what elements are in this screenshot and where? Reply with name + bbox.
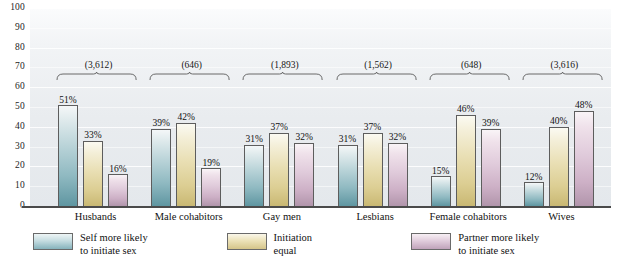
bar-value-label: 40% bbox=[550, 117, 567, 127]
bar-slot: 31% bbox=[244, 8, 264, 206]
bar-chart: 1009080706050403020100 (3,612)51%33%16%(… bbox=[0, 0, 617, 268]
y-axis-tick-10: 10 bbox=[15, 181, 25, 191]
bar-5-1[interactable]: 40% bbox=[549, 127, 569, 206]
category-label-0: Husbands bbox=[52, 210, 139, 224]
legend-label-line2: equal bbox=[274, 245, 313, 258]
bar-4-0[interactable]: 15% bbox=[431, 176, 451, 206]
bar-slot: 16% bbox=[108, 8, 128, 206]
legend-label-line1: Self more likely bbox=[80, 232, 148, 245]
y-axis: 1009080706050403020100 bbox=[0, 0, 28, 215]
y-axis-tick-30: 30 bbox=[15, 142, 25, 152]
bar-group-2: (1,893)31%37%32% bbox=[238, 8, 331, 206]
bar-groups: (3,612)51%33%16%(646)39%42%19%(1,893)31%… bbox=[30, 8, 611, 206]
bar-5-0[interactable]: 12% bbox=[524, 182, 544, 206]
bar-slot: 32% bbox=[388, 8, 408, 206]
bar-value-label: 42% bbox=[177, 113, 194, 123]
bars-container: 12%40%48% bbox=[518, 8, 611, 206]
bar-value-label: 33% bbox=[84, 131, 101, 141]
legend-label-line2: to initiate sex bbox=[458, 245, 539, 258]
legend-label: Self more likelyto initiate sex bbox=[80, 232, 148, 257]
bar-slot: 46% bbox=[456, 8, 476, 206]
bar-value-label: 46% bbox=[457, 105, 474, 115]
legend-label: Initiationequal bbox=[274, 232, 313, 257]
bars-container: 31%37%32% bbox=[238, 8, 331, 206]
bar-2-2[interactable]: 32% bbox=[294, 143, 314, 206]
bar-slot: 39% bbox=[151, 8, 171, 206]
y-axis-tick-60: 60 bbox=[15, 82, 25, 92]
bar-value-label: 48% bbox=[575, 101, 592, 111]
legend-item-1[interactable]: Initiationequal bbox=[227, 232, 382, 257]
bar-slot: 19% bbox=[201, 8, 221, 206]
bar-value-label: 51% bbox=[59, 96, 76, 106]
bar-slot: 37% bbox=[269, 8, 289, 206]
y-axis-tick-50: 50 bbox=[15, 102, 25, 112]
y-axis-tick-90: 90 bbox=[15, 23, 25, 33]
chart-legend: Self more likelyto initiate sexInitiatio… bbox=[33, 232, 603, 262]
bar-3-0[interactable]: 31% bbox=[338, 145, 358, 206]
bar-group-0: (3,612)51%33%16% bbox=[52, 8, 145, 206]
legend-label-line1: Partner more likely bbox=[458, 232, 539, 245]
bar-3-1[interactable]: 37% bbox=[363, 133, 383, 206]
bars-container: 51%33%16% bbox=[52, 8, 145, 206]
bar-value-label: 31% bbox=[246, 135, 263, 145]
bar-1-2[interactable]: 19% bbox=[201, 168, 221, 206]
bar-value-label: 39% bbox=[152, 119, 169, 129]
bar-1-1[interactable]: 42% bbox=[176, 123, 196, 206]
bar-1-0[interactable]: 39% bbox=[151, 129, 171, 206]
bar-value-label: 32% bbox=[389, 133, 406, 143]
y-axis-tick-80: 80 bbox=[15, 43, 25, 53]
legend-label: Partner more likelyto initiate sex bbox=[458, 232, 539, 257]
category-label-3: Lesbians bbox=[332, 210, 419, 224]
bar-4-2[interactable]: 39% bbox=[481, 129, 501, 206]
legend-label-line1: Initiation bbox=[274, 232, 313, 245]
bar-value-label: 31% bbox=[339, 135, 356, 145]
bar-group-5: (3,616)12%40%48% bbox=[518, 8, 611, 206]
bar-group-4: (648)15%46%39% bbox=[425, 8, 518, 206]
teal-swatch bbox=[33, 233, 73, 250]
bar-slot: 31% bbox=[338, 8, 358, 206]
bar-value-label: 15% bbox=[432, 167, 449, 177]
category-label-4: Female cohabitors bbox=[425, 210, 512, 224]
bar-4-1[interactable]: 46% bbox=[456, 115, 476, 206]
bar-value-label: 37% bbox=[364, 123, 381, 133]
bar-0-0[interactable]: 51% bbox=[58, 105, 78, 206]
bar-0-1[interactable]: 33% bbox=[83, 141, 103, 206]
y-axis-tick-70: 70 bbox=[15, 63, 25, 73]
category-label-5: Wives bbox=[518, 210, 605, 224]
bar-slot: 32% bbox=[294, 8, 314, 206]
category-label-1: Male cohabitors bbox=[145, 210, 232, 224]
legend-label-line2: to initiate sex bbox=[80, 245, 148, 258]
bar-5-2[interactable]: 48% bbox=[574, 111, 594, 206]
bar-value-label: 32% bbox=[296, 133, 313, 143]
bar-group-3: (1,562)31%37%32% bbox=[332, 8, 425, 206]
bar-slot: 40% bbox=[549, 8, 569, 206]
bar-2-1[interactable]: 37% bbox=[269, 133, 289, 206]
bar-slot: 42% bbox=[176, 8, 196, 206]
bar-value-label: 12% bbox=[525, 173, 542, 183]
bar-value-label: 37% bbox=[271, 123, 288, 133]
bar-value-label: 16% bbox=[109, 165, 126, 175]
bar-slot: 51% bbox=[58, 8, 78, 206]
legend-item-0[interactable]: Self more likelyto initiate sex bbox=[33, 232, 197, 257]
legend-item-2[interactable]: Partner more likelyto initiate sex bbox=[411, 232, 573, 257]
bar-group-1: (646)39%42%19% bbox=[145, 8, 238, 206]
y-axis-tick-40: 40 bbox=[15, 122, 25, 132]
y-axis-tick-20: 20 bbox=[15, 162, 25, 172]
bar-value-label: 39% bbox=[482, 119, 499, 129]
category-label-2: Gay men bbox=[238, 210, 325, 224]
bars-container: 15%46%39% bbox=[425, 8, 518, 206]
bar-2-0[interactable]: 31% bbox=[244, 145, 264, 206]
bar-value-label: 19% bbox=[202, 159, 219, 169]
category-labels: HusbandsMale cohabitorsGay menLesbiansFe… bbox=[30, 210, 611, 226]
bar-3-2[interactable]: 32% bbox=[388, 143, 408, 206]
y-axis-tick-100: 100 bbox=[10, 3, 25, 13]
bar-slot: 37% bbox=[363, 8, 383, 206]
bar-0-2[interactable]: 16% bbox=[108, 174, 128, 206]
mauve-swatch bbox=[411, 233, 451, 250]
gold-swatch bbox=[227, 233, 267, 250]
bars-container: 39%42%19% bbox=[145, 8, 238, 206]
bar-slot: 39% bbox=[481, 8, 501, 206]
bars-container: 31%37%32% bbox=[332, 8, 425, 206]
bar-slot: 15% bbox=[431, 8, 451, 206]
bar-slot: 33% bbox=[83, 8, 103, 206]
